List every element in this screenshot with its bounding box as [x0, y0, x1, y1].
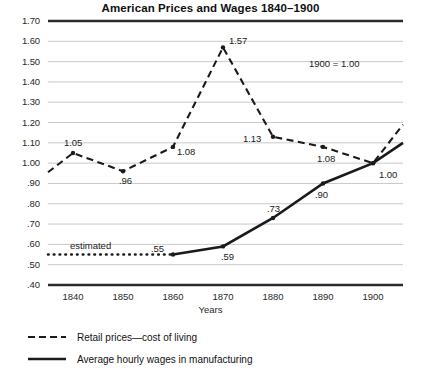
data-point-retail-prices — [221, 45, 225, 49]
data-label-retail-prices: 1.05 — [64, 137, 82, 148]
legend-key-solid-icon — [28, 353, 68, 365]
data-point-retail-prices — [321, 145, 325, 149]
y-tick-label: 1.50 — [10, 56, 40, 67]
legend-item-retail-prices: Retail prices—cost of living — [28, 326, 421, 348]
data-label-retail-prices: 1.08 — [317, 153, 335, 164]
y-tick-label: .90 — [10, 177, 40, 188]
y-tick-label: 1.70 — [10, 15, 40, 26]
y-tick-label: .50 — [10, 259, 40, 270]
data-point-average-wages — [321, 181, 325, 185]
data-point-average-wages — [271, 216, 275, 220]
x-tick-label: 1880 — [253, 291, 293, 302]
y-tick-label: 1.10 — [10, 137, 40, 148]
data-label-average-wages: .59 — [221, 251, 234, 262]
legend-item-average-wages: Average hourly wages in manufacturing — [28, 348, 421, 370]
plot-svg — [0, 0, 421, 376]
estimated-segment-label: estimated — [70, 240, 111, 251]
y-tick-label: .70 — [10, 218, 40, 229]
data-point-retail-prices — [71, 151, 75, 155]
chart-figure: American Prices and Wages 1840–1900 1.70… — [0, 0, 421, 376]
y-tick-label: 1.40 — [10, 76, 40, 87]
data-point-average-wages — [371, 161, 375, 165]
data-label-average-wages: .55 — [151, 243, 164, 254]
x-tick-label: 1890 — [303, 291, 343, 302]
data-label-average-wages: .73 — [267, 203, 280, 214]
data-label-retail-prices: 1.13 — [243, 133, 261, 144]
legend-key-dashed-icon — [28, 331, 68, 343]
series-line-average-wages — [173, 143, 403, 255]
y-tick-label: 1.20 — [10, 117, 40, 128]
x-tick-label: 1900 — [353, 291, 393, 302]
chart-legend: Retail prices—cost of living Average hou… — [28, 326, 421, 370]
data-label-retail-prices: 1.08 — [177, 146, 195, 157]
y-tick-label: 1.60 — [10, 35, 40, 46]
data-point-retail-prices — [271, 135, 275, 139]
legend-label-average-wages: Average hourly wages in manufacturing — [77, 354, 252, 365]
data-label-average-wages: .90 — [315, 189, 328, 200]
y-tick-label: .80 — [10, 198, 40, 209]
x-tick-label: 1870 — [203, 291, 243, 302]
data-label-retail-prices: 1.00 — [379, 169, 397, 180]
x-tick-label: 1840 — [53, 291, 93, 302]
plot-area — [0, 0, 421, 376]
x-axis-title: Years — [0, 304, 421, 315]
y-tick-label: .60 — [10, 238, 40, 249]
data-point-average-wages — [221, 244, 225, 248]
y-tick-label: 1.30 — [10, 96, 40, 107]
y-tick-label: 1.00 — [10, 157, 40, 168]
x-tick-label: 1850 — [103, 291, 143, 302]
data-label-retail-prices: .96 — [119, 175, 132, 186]
y-tick-label: .40 — [10, 279, 40, 290]
x-tick-label: 1860 — [153, 291, 193, 302]
data-point-retail-prices — [121, 169, 125, 173]
index-base-annotation: 1900 = 1.00 — [309, 58, 359, 69]
data-point-retail-prices — [171, 145, 175, 149]
data-label-retail-prices: 1.57 — [229, 35, 247, 46]
legend-label-retail-prices: Retail prices—cost of living — [77, 332, 197, 343]
